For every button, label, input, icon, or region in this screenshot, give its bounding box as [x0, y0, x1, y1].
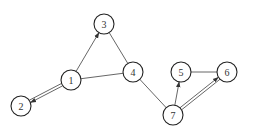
nodes-layer: 1234567 [11, 14, 237, 125]
edge-1-4 [81, 73, 123, 78]
edge-4-7 [140, 79, 166, 107]
node-label: 1 [69, 75, 74, 86]
node-7: 7 [163, 105, 183, 125]
node-1: 1 [61, 70, 81, 90]
node-4: 4 [123, 62, 143, 82]
node-3: 3 [94, 14, 114, 34]
node-label: 6 [225, 67, 230, 78]
node-label: 5 [179, 67, 184, 78]
edge-1-2 [30, 86, 62, 103]
node-label: 3 [102, 19, 107, 30]
node-5: 5 [171, 62, 191, 82]
graph-diagram: 1234567 [0, 0, 253, 136]
node-label: 4 [131, 67, 136, 78]
edge-7-6 [182, 79, 220, 110]
edge-3-4 [109, 33, 128, 64]
node-6: 6 [217, 62, 237, 82]
node-label: 7 [171, 110, 176, 121]
edge-1-3 [76, 33, 99, 72]
edge-7-5 [175, 82, 179, 105]
edge-7-6 [180, 77, 218, 108]
node-label: 2 [19, 101, 24, 112]
edge-1-2 [29, 83, 61, 100]
node-2: 2 [11, 96, 31, 116]
